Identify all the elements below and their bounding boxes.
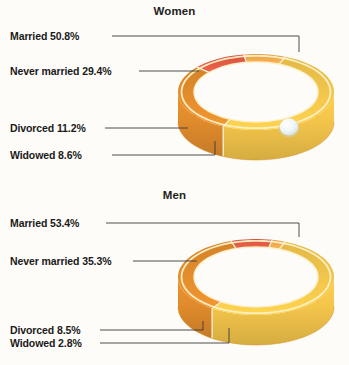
label-women-never-married: Never married 29.4%	[10, 65, 111, 77]
chart-panel-women: Women Married 50.8% Never married 29.4% …	[0, 0, 349, 185]
ring-chart-men	[172, 225, 340, 345]
label-women-married: Married 50.8%	[10, 30, 79, 42]
label-men-never-married: Never married 35.3%	[10, 255, 111, 267]
label-men-divorced: Divorced 8.5%	[10, 324, 80, 336]
label-men-widowed: Widowed 2.8%	[10, 337, 82, 349]
panel-title-men: Men	[0, 189, 349, 201]
chart-panel-men: Men Married 53.4% Never married 35.3% Di…	[0, 185, 349, 365]
panel-title-women: Women	[0, 5, 349, 17]
label-men-married: Married 53.4%	[10, 217, 79, 229]
label-women-divorced: Divorced 11.2%	[10, 122, 86, 134]
ring-jewel	[279, 119, 300, 138]
ring-chart-women	[172, 40, 340, 160]
label-women-widowed: Widowed 8.6%	[10, 149, 82, 161]
